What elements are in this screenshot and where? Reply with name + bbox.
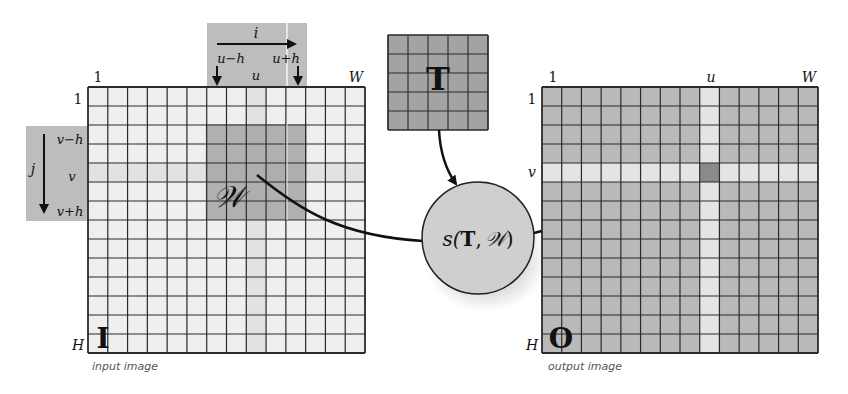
input-image-symbol: I [96,322,109,355]
similarity-label: s(T,𝒲) [442,227,513,251]
input-row-first-label: 1 [74,91,83,107]
output-image-caption: output image [548,360,622,373]
input-col-first-label: 1 [94,69,103,85]
output-target-cell [700,163,720,182]
output-row-last-label: H [525,337,539,353]
left-annotation-box: j v−h v v+h [26,126,88,221]
input-row-last-label: H [71,337,85,353]
template-symbol: T [426,60,450,98]
output-col-u-label: u [706,69,715,85]
u-minus-h-label: u−h [217,51,245,66]
input-image-grid [88,87,365,353]
top-annotation-box: i u−h u+h u [207,23,307,86]
i-axis-label: i [254,25,258,41]
u-plus-h-label: u+h [272,51,300,66]
template-matching-diagram: i u−h u+h u j v−h v v+h 1 W 1 H I input … [0,0,848,394]
output-row-first-label: 1 [528,91,537,107]
output-image-grid [542,87,818,353]
output-col-last-label: W [802,69,818,85]
input-col-last-label: W [349,69,365,85]
output-image-symbol: O [549,322,573,355]
v-plus-h-label: v+h [57,204,84,219]
template-to-similarity-arrow [439,130,456,184]
v-minus-h-label: v−h [57,132,84,147]
v-label-input: v [68,169,76,184]
input-image-caption: input image [92,360,158,373]
output-col-first-label: 1 [549,69,558,85]
u-label-input: u [252,68,260,83]
output-row-v-label: v [528,164,536,180]
